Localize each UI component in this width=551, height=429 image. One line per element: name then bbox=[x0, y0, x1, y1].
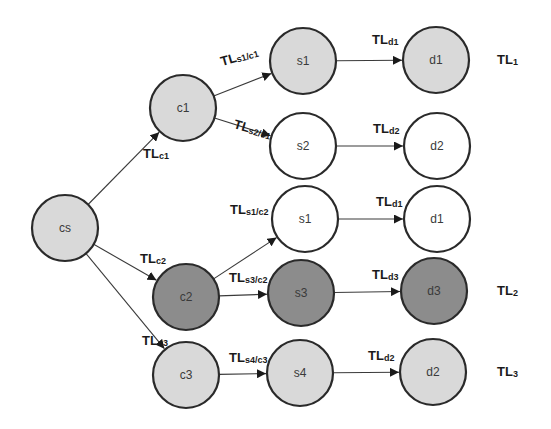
node-c3: c3 bbox=[153, 342, 219, 408]
edge-label-subscript: s3/c2 bbox=[245, 275, 268, 285]
edge-label-main: TL bbox=[373, 121, 389, 136]
edge-s1a-to-d1a bbox=[336, 60, 402, 61]
edge-label-main: TL bbox=[368, 348, 384, 363]
node-s3: s3 bbox=[268, 260, 334, 326]
edge-label-main: TL bbox=[376, 194, 392, 209]
node-label: d1 bbox=[429, 53, 443, 67]
edge-label-main: TL bbox=[372, 32, 388, 47]
edge-label-subscript: c1 bbox=[159, 151, 169, 161]
edge-label-main: TL bbox=[219, 50, 238, 69]
edge-label-cs-to-c3: TLc3 bbox=[142, 333, 168, 348]
node-label: d2 bbox=[430, 139, 444, 153]
edge-label-c1-to-s1a: TLs1/c1 bbox=[219, 44, 260, 69]
edge-label-subscript: c2 bbox=[156, 256, 166, 266]
node-label: c3 bbox=[180, 368, 193, 382]
edge-label-subscript: d2 bbox=[389, 126, 400, 136]
nodes: csc1c2c3s1s2s1s3s4d1d2d1d3d2 bbox=[32, 27, 470, 408]
node-label: d3 bbox=[427, 284, 441, 298]
node-label: s2 bbox=[297, 139, 310, 153]
tree-diagram: csc1c2c3s1s2s1s3s4d1d2d1d3d2 TLc1TLc2TLc… bbox=[0, 0, 551, 429]
edge-label-s1b-to-d1b: TLd1 bbox=[376, 194, 402, 209]
node-d3: d3 bbox=[401, 258, 467, 324]
edge-c3-to-s4 bbox=[219, 374, 266, 375]
edge-label-subscript: d1 bbox=[388, 37, 399, 47]
edge-c2-to-s1b bbox=[214, 238, 277, 279]
node-d1a: d1 bbox=[403, 27, 469, 93]
path-label-subscript: 1 bbox=[513, 57, 518, 67]
edge-label-c1-to-s2: TLs2/c1 bbox=[232, 116, 273, 141]
edge-label-main: TL bbox=[372, 267, 388, 282]
edge-label-subscript: d2 bbox=[384, 353, 395, 363]
edge-label-subscript: d3 bbox=[388, 272, 399, 282]
node-c2: c2 bbox=[153, 264, 219, 330]
node-s1a: s1 bbox=[270, 28, 336, 94]
node-d1b: d1 bbox=[404, 186, 470, 252]
edge-label-subscript: s1/c1 bbox=[235, 49, 259, 65]
edges bbox=[86, 60, 403, 374]
edge-label-subscript: c3 bbox=[158, 338, 168, 348]
node-label: d1 bbox=[430, 212, 444, 226]
edge-label-c2-to-s1b: TLs1/c2 bbox=[230, 202, 268, 217]
edge-label-main: TL bbox=[230, 202, 246, 217]
edge-label-main: TL bbox=[140, 251, 156, 266]
edge-s4-to-d2b bbox=[333, 372, 399, 373]
edge-label-s2-to-d2a: TLd2 bbox=[373, 121, 399, 136]
node-label: cs bbox=[59, 221, 71, 235]
path-labels: TL1TL2TL3 bbox=[497, 52, 518, 379]
edge-label-main: TL bbox=[229, 270, 245, 285]
path-label-main: TL bbox=[497, 283, 513, 298]
edge-label-subscript: s1/c2 bbox=[246, 207, 269, 217]
edge-label-c2-to-s3: TLs3/c2 bbox=[229, 270, 267, 285]
node-s1b: s1 bbox=[272, 186, 338, 252]
edge-label-c3-to-s4: TLs4/c3 bbox=[229, 350, 267, 365]
node-d2a: d2 bbox=[404, 113, 470, 179]
node-label: s3 bbox=[295, 286, 308, 300]
edge-label-s1a-to-d1a: TLd1 bbox=[372, 32, 398, 47]
node-label: c2 bbox=[180, 290, 193, 304]
path-label-subscript: 3 bbox=[513, 369, 518, 379]
edge-label-main: TL bbox=[143, 146, 159, 161]
edge-label-cs-to-c2: TLc2 bbox=[140, 251, 166, 266]
edge-label-main: TL bbox=[142, 333, 158, 348]
node-label: c1 bbox=[177, 101, 190, 115]
node-s2: s2 bbox=[270, 113, 336, 179]
edge-label-cs-to-c1: TLc1 bbox=[143, 146, 169, 161]
edge-label-s4-to-d2b: TLd2 bbox=[368, 348, 394, 363]
path-label-main: TL bbox=[497, 52, 513, 67]
edge-c1-to-s1a bbox=[214, 73, 272, 96]
node-d2b: d2 bbox=[400, 339, 466, 405]
path-label-main: TL bbox=[497, 364, 513, 379]
node-c1: c1 bbox=[150, 75, 216, 141]
edge-label-s3-to-d3: TLd3 bbox=[372, 267, 398, 282]
edge-c2-to-s3 bbox=[219, 294, 267, 296]
node-s4: s4 bbox=[267, 340, 333, 406]
path-label-3: TL3 bbox=[497, 364, 518, 379]
node-label: d2 bbox=[426, 365, 440, 379]
node-label: s1 bbox=[299, 212, 312, 226]
node-cs: cs bbox=[32, 195, 98, 261]
edge-label-subscript: d1 bbox=[392, 199, 403, 209]
edge-label-subscript: s4/c3 bbox=[245, 355, 268, 365]
path-label-2: TL2 bbox=[497, 283, 518, 298]
edge-label-subscript: s2/c1 bbox=[247, 126, 271, 142]
node-label: s1 bbox=[297, 54, 310, 68]
path-label-1: TL1 bbox=[497, 52, 518, 67]
edge-cs-to-c1 bbox=[88, 132, 159, 204]
node-label: s4 bbox=[294, 366, 307, 380]
edge-s3-to-d3 bbox=[334, 292, 400, 293]
path-label-subscript: 2 bbox=[513, 288, 518, 298]
edge-label-main: TL bbox=[229, 350, 245, 365]
